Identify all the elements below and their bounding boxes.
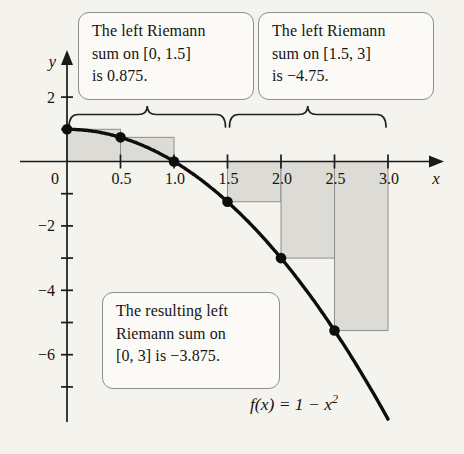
- callout-text: Riemann sum on: [116, 323, 268, 346]
- x-axis-arrow: [429, 156, 444, 168]
- callout-resulting-sum-0-to-3: The resulting left Riemann sum on [0, 3]…: [102, 292, 280, 389]
- function-label: f(x) = 1 − x2: [250, 394, 338, 415]
- callout-text: sum on [0, 1.5]: [92, 43, 242, 66]
- left-endpoint-dot: [169, 156, 180, 167]
- function-label-base: f(x) = 1 − x: [250, 394, 332, 414]
- x-tick-label: 1.5: [219, 170, 239, 187]
- callout-text: is 0.875.: [92, 65, 242, 88]
- left-endpoint-dot: [62, 124, 73, 135]
- x-axis-label: x: [431, 169, 440, 188]
- callout-text: [0, 3] is −3.875.: [116, 345, 268, 368]
- callout-text: The left Riemann: [92, 20, 242, 43]
- origin-label: 0: [51, 170, 59, 187]
- y-tick-label: −2: [38, 217, 55, 234]
- left-endpoint-dot: [115, 132, 126, 143]
- left-endpoint-dot: [329, 325, 340, 336]
- y-axis-arrow: [61, 50, 73, 65]
- y-axis-label: y: [46, 52, 56, 71]
- y-tick-label: −6: [38, 346, 55, 363]
- callout-left-sum-1-5-to-3: The left Riemann sum on [1.5, 3] is −4.7…: [258, 12, 434, 100]
- y-tick-label: −4: [38, 282, 55, 299]
- interval-brace: [230, 106, 387, 127]
- riemann-sum-figure: 0.51.01.52.02.53.02−2−4−60yx The left Ri…: [0, 0, 464, 454]
- left-endpoint-dot: [222, 196, 233, 207]
- callout-text: The left Riemann: [272, 20, 422, 43]
- callout-left-sum-0-to-1-5: The left Riemann sum on [0, 1.5] is 0.87…: [78, 12, 254, 100]
- x-tick-label: 2.5: [326, 170, 346, 187]
- left-endpoint-dot: [276, 253, 287, 264]
- function-label-exponent: 2: [332, 392, 338, 406]
- callout-text: The resulting left: [116, 300, 268, 323]
- callout-text: sum on [1.5, 3]: [272, 43, 422, 66]
- y-tick-label: 2: [47, 89, 55, 106]
- x-tick-label: 1.0: [165, 170, 185, 187]
- x-tick-label: 2.0: [272, 170, 292, 187]
- interval-brace: [69, 106, 226, 127]
- x-tick-label: 3.0: [379, 170, 399, 187]
- callout-text: is −4.75.: [272, 65, 422, 88]
- x-tick-label: 0.5: [112, 170, 132, 187]
